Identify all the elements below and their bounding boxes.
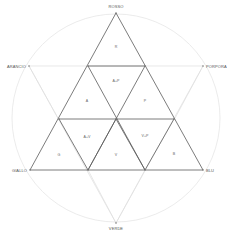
- label-rosso: ROSSO: [109, 4, 124, 9]
- label-giallo: GIALLO: [12, 168, 27, 173]
- triangle-label-top: R: [115, 45, 118, 49]
- color-triangle-diagram: ROSSO ARANCIO PORPORA GIALLO BLU VERDE R…: [0, 0, 227, 235]
- label-arancio: ARANCIO: [7, 64, 26, 69]
- vertex-dots: [28, 12, 204, 224]
- triangle-label-bottom-left-inner: A+V: [84, 135, 91, 139]
- triangle-label-left: A: [86, 99, 89, 103]
- label-porpora: PORPORA: [206, 64, 227, 69]
- triangle-label-bottom-right: B: [173, 152, 176, 156]
- triangle-label-bottom-right-inner: V+P: [142, 134, 149, 138]
- triangle-label-bottom-left: G: [58, 153, 61, 157]
- triangle-label-bottom-center: V: [115, 153, 118, 157]
- triangle-label-right: P: [144, 99, 147, 103]
- label-blu: BLU: [206, 168, 214, 173]
- guide-lines: [29, 66, 203, 223]
- triangle-label-center-top: A+P: [113, 79, 120, 83]
- label-verde: VERDE: [109, 226, 124, 231]
- main-triangle-grid: [30, 13, 203, 170]
